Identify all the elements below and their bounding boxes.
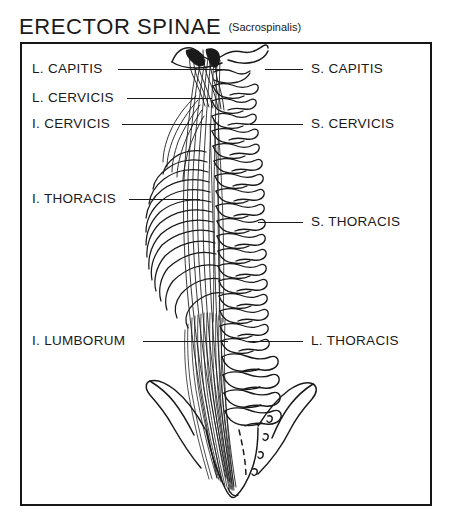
label-i-cervicis: I. CERVICIS: [32, 117, 110, 131]
diagram-page: ERECTOR SPINAE(Sacrospinalis): [0, 0, 454, 521]
leader-line-s-cervicis: [250, 124, 303, 125]
leader-line-i-lumborum: [143, 341, 228, 342]
label-l-cervicis: L. CERVICIS: [32, 91, 114, 105]
label-s-capitis: S. CAPITIS: [311, 62, 383, 76]
title-block: ERECTOR SPINAE(Sacrospinalis): [19, 14, 429, 42]
label-l-capitis: L. CAPITIS: [32, 62, 103, 76]
page-title: ERECTOR SPINAE: [19, 14, 221, 39]
leader-line-i-thoracis: [129, 199, 200, 200]
leader-line-i-cervicis: [122, 124, 216, 125]
leader-line-l-capitis: [118, 69, 222, 70]
label-i-thoracis: I. THORACIS: [32, 192, 116, 206]
leader-line-s-thoracis: [258, 222, 303, 223]
label-s-thoracis: S. THORACIS: [311, 215, 400, 229]
diagram-frame: [20, 42, 432, 506]
label-l-thoracis: L. THORACIS: [311, 334, 399, 348]
page-subtitle: (Sacrospinalis): [228, 21, 301, 33]
label-s-cervicis: S. CERVICIS: [311, 117, 394, 131]
leader-line-l-thoracis: [248, 341, 303, 342]
leader-line-s-capitis: [265, 69, 303, 70]
leader-line-l-cervicis: [127, 98, 212, 99]
label-i-lumborum: I. LUMBORUM: [32, 334, 125, 348]
